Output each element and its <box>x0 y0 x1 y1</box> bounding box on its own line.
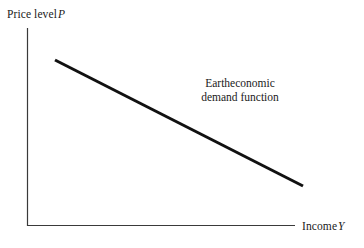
y-axis-label-variable: P <box>57 8 65 20</box>
curve-annotation-line-2: demand function <box>180 91 300 105</box>
curve-annotation: Eartheconomic demand function <box>180 77 300 104</box>
chart-plot-area <box>0 0 364 248</box>
x-axis-label-variable: Y <box>337 220 345 232</box>
figure-canvas: Price levelP IncomeY Eartheconomic deman… <box>0 0 364 248</box>
x-axis-label-text: Income <box>302 220 337 232</box>
y-axis-label-text: Price level <box>7 8 57 20</box>
x-axis-label: IncomeY <box>302 220 345 233</box>
y-axis-label: Price levelP <box>7 8 65 21</box>
curve-annotation-line-1: Eartheconomic <box>180 77 300 91</box>
